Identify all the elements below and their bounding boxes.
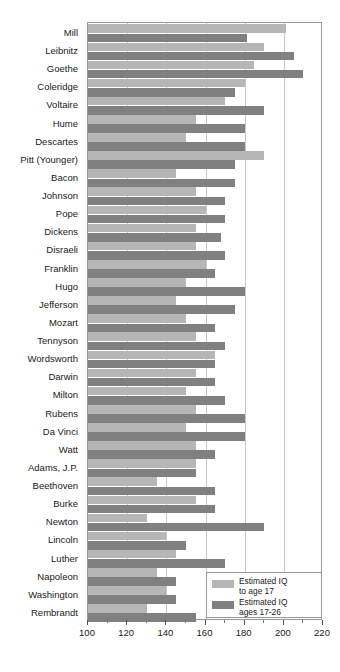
axis-tick-label: 160 xyxy=(197,627,213,638)
axis-tick-minor xyxy=(224,620,225,623)
bar-to-age-17 xyxy=(88,278,186,287)
legend-entry: Estimated IQ to age 17 xyxy=(212,577,317,596)
bar-to-age-17 xyxy=(88,441,196,450)
bar-to-age-17 xyxy=(88,206,206,215)
legend-entry: Estimated IQ ages 17-26 xyxy=(212,598,317,617)
axis-tick-minor xyxy=(185,620,186,623)
legend-swatch xyxy=(212,601,234,609)
bar-to-age-17 xyxy=(88,115,196,124)
bar-to-age-17 xyxy=(88,296,176,305)
axis-tick-major xyxy=(283,620,284,625)
bar-to-age-17 xyxy=(88,314,186,323)
axis-tick-minor xyxy=(107,620,108,623)
bar-to-age-17 xyxy=(88,224,196,233)
category-label: Rembrandt xyxy=(31,602,78,623)
bar-to-age-17 xyxy=(88,459,196,468)
x-axis: 100120140160180200220 xyxy=(87,620,322,650)
bar-to-age-17 xyxy=(88,586,166,595)
bar-to-age-17 xyxy=(88,79,245,88)
axis-tick-label: 100 xyxy=(79,627,95,638)
axis-tick-minor xyxy=(146,620,147,623)
axis-tick-label: 220 xyxy=(314,627,330,638)
bar-to-age-17 xyxy=(88,187,196,196)
bar-to-age-17 xyxy=(88,423,186,432)
bar-to-age-17 xyxy=(88,496,196,505)
bar-to-age-17 xyxy=(88,351,215,360)
category-axis-labels: MillLeibnitzGoetheColeridgeVoltaireHumeD… xyxy=(0,22,84,620)
bar-to-age-17 xyxy=(88,550,176,559)
bar-to-age-17 xyxy=(88,514,147,523)
bar-to-age-17 xyxy=(88,61,254,70)
axis-tick-major xyxy=(205,620,206,625)
bar-to-age-17 xyxy=(88,387,186,396)
chart-legend: Estimated IQ to age 17Estimated IQ ages … xyxy=(206,572,322,618)
axis-tick-major xyxy=(126,620,127,625)
bar-to-age-17 xyxy=(88,43,264,52)
legend-swatch xyxy=(212,580,234,588)
bar-to-age-17 xyxy=(88,151,264,160)
bar-to-age-17 xyxy=(88,369,196,378)
bar-to-age-17 xyxy=(88,24,286,33)
axis-tick-minor xyxy=(263,620,264,623)
bar-to-age-17 xyxy=(88,532,166,541)
axis-tick-major xyxy=(244,620,245,625)
axis-tick-major xyxy=(87,620,88,625)
legend-label: Estimated IQ ages 17-26 xyxy=(239,598,287,617)
plot-area xyxy=(87,22,322,620)
bar-to-age-17 xyxy=(88,477,157,486)
axis-tick-label: 120 xyxy=(118,627,134,638)
bar-to-age-17 xyxy=(88,97,225,106)
bar-to-age-17 xyxy=(88,568,157,577)
axis-tick-label: 140 xyxy=(157,627,173,638)
bar-to-age-17 xyxy=(88,169,176,178)
axis-tick-major xyxy=(165,620,166,625)
bar-to-age-17 xyxy=(88,604,147,613)
legend-label: Estimated IQ to age 17 xyxy=(239,577,287,596)
axis-tick-label: 180 xyxy=(236,627,252,638)
axis-tick-label: 200 xyxy=(275,627,291,638)
iq-bar-chart: MillLeibnitzGoetheColeridgeVoltaireHumeD… xyxy=(0,0,340,672)
bar-to-age-17 xyxy=(88,405,196,414)
bar-to-age-17 xyxy=(88,242,196,251)
axis-tick-minor xyxy=(302,620,303,623)
bar-to-age-17 xyxy=(88,133,186,142)
bar-to-age-17 xyxy=(88,332,196,341)
axis-tick-major xyxy=(322,620,323,625)
bar-to-age-17 xyxy=(88,260,206,269)
